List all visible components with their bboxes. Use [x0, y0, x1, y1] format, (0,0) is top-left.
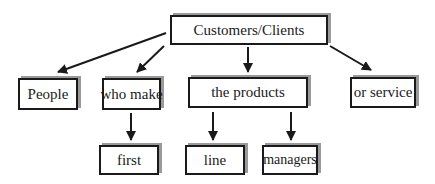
- node-customers-clients: Customers/Clients: [170, 15, 328, 45]
- node-managers: managers: [262, 145, 318, 175]
- node-label: line: [204, 152, 227, 169]
- node-label: managers: [263, 152, 317, 168]
- node-label: Customers/Clients: [194, 22, 305, 39]
- node-label: first: [117, 152, 141, 169]
- node-label: or service: [354, 84, 413, 101]
- node-people: People: [18, 78, 78, 110]
- diagram-canvas: Customers/Clients People who make the pr…: [0, 0, 435, 184]
- edge-root-or-service: [330, 46, 371, 70]
- node-label: who make: [100, 86, 162, 103]
- node-the-products: the products: [188, 77, 308, 108]
- edge-root-people: [58, 33, 166, 72]
- node-or-service: or service: [350, 77, 416, 108]
- node-label: the products: [211, 84, 285, 101]
- node-label: People: [28, 86, 69, 103]
- edge-root-who-make: [137, 46, 164, 72]
- node-first: first: [99, 145, 159, 175]
- node-who-make: who make: [102, 78, 161, 110]
- node-line: line: [185, 145, 245, 175]
